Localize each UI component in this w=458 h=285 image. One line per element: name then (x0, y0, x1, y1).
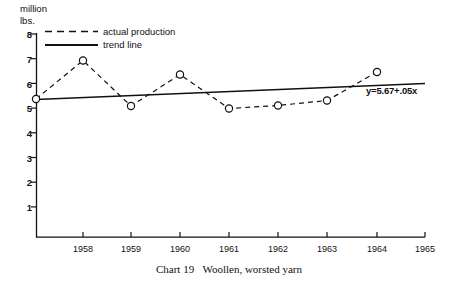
chart-caption: Chart 19 Woollen, worsted yarn (0, 263, 458, 275)
data-point-1957 (32, 95, 39, 102)
data-point-1959 (127, 102, 134, 109)
series-trend-line (36, 84, 425, 100)
data-point-1960 (176, 71, 183, 78)
y-axis-ticks (31, 34, 36, 207)
chart-plot-area (0, 0, 458, 285)
chart-caption-title: Woollen, worsted yarn (202, 263, 302, 275)
data-point-1963 (323, 97, 330, 104)
data-point-1961 (225, 105, 232, 112)
data-point-1958 (79, 57, 86, 64)
data-point-1964 (373, 68, 380, 75)
x-axis-ticks (83, 232, 425, 237)
chart-caption-number: Chart 19 (156, 263, 194, 275)
data-point-markers (32, 57, 380, 112)
chart-container: millionlbs. 8 7 6 5 4 3 2 1 1958 1959 19… (0, 0, 458, 285)
data-point-1962 (274, 102, 281, 109)
